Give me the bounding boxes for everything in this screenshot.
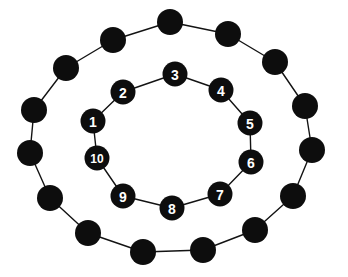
node-label: 4 (217, 83, 225, 99)
outer-ring-node (100, 27, 126, 53)
outer-ring-node (17, 140, 43, 166)
node-label: 9 (119, 189, 127, 205)
outer-ring-node (280, 183, 306, 209)
node-label: 7 (216, 187, 224, 203)
node-label: 2 (119, 85, 127, 101)
outer-ring-node (75, 220, 101, 246)
inner-ring-nodes: 12345678910 (81, 62, 264, 221)
node-label: 5 (246, 116, 254, 132)
node-label: 10 (90, 152, 104, 166)
graph-figure: 12345678910 (0, 0, 348, 277)
outer-ring-node (130, 239, 156, 265)
outer-ring-node (292, 93, 318, 119)
outer-ring-node (190, 237, 216, 263)
outer-ring-node (157, 9, 183, 35)
outer-ring-nodes (17, 9, 325, 265)
outer-ring-node (242, 217, 268, 243)
outer-ring-node (21, 97, 47, 123)
outer-ring-node (262, 49, 288, 75)
outer-ring-node (215, 21, 241, 47)
node-label: 1 (89, 114, 97, 130)
node-label: 6 (247, 155, 255, 171)
outer-ring-node (299, 137, 325, 163)
graph-canvas: 12345678910 (0, 0, 348, 277)
outer-ring-node (53, 55, 79, 81)
node-label: 8 (168, 201, 176, 217)
node-label: 3 (171, 67, 179, 83)
outer-ring-node (37, 185, 63, 211)
